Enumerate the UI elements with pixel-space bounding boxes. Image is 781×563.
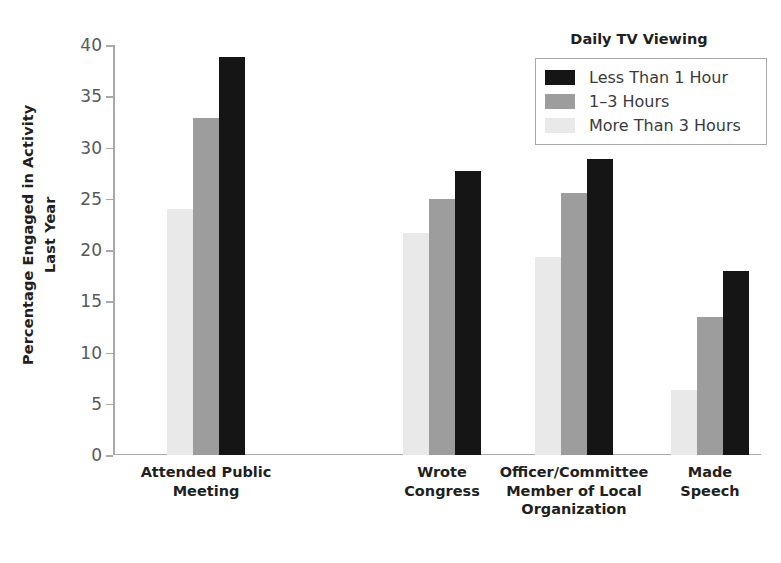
y-tick-label: 10 (80, 343, 102, 363)
bar (219, 57, 245, 455)
legend-item: More Than 3 Hours (545, 113, 757, 137)
y-tick-label: 30 (80, 138, 102, 158)
legend-item-label: Less Than 1 Hour (589, 68, 728, 87)
bar (429, 199, 455, 455)
legend-box: Less Than 1 Hour1–3 HoursMore Than 3 Hou… (535, 58, 767, 145)
y-tick-mark (106, 404, 113, 406)
y-tick-label: 20 (80, 240, 102, 260)
bar (561, 193, 587, 455)
bar (671, 390, 697, 455)
y-tick-mark (106, 199, 113, 201)
y-tick-label: 25 (80, 189, 102, 209)
bar (193, 118, 219, 455)
y-tick-label: 40 (80, 35, 102, 55)
y-tick-label: 0 (91, 445, 102, 465)
y-tick-mark (106, 353, 113, 355)
legend-item-label: More Than 3 Hours (589, 116, 741, 135)
y-tick-mark (106, 96, 113, 98)
legend-item: Less Than 1 Hour (545, 65, 757, 89)
y-axis-title-line-2: Last Year (40, 105, 62, 365)
bar (697, 317, 723, 455)
bar (455, 171, 481, 455)
bar-chart: Percentage Engaged in Activity Last Year… (0, 0, 781, 563)
legend-item-label: 1–3 Hours (589, 92, 669, 111)
bar (403, 233, 429, 455)
y-tick-mark (106, 301, 113, 303)
bar (587, 159, 613, 455)
bar-group (403, 45, 481, 455)
legend-title: Daily TV Viewing (508, 31, 770, 47)
legend-swatch (545, 118, 575, 133)
legend-swatch (545, 70, 575, 85)
bar-group (167, 45, 245, 455)
y-tick-mark (106, 250, 113, 252)
x-axis-category-label: Made Speech (600, 463, 781, 500)
y-axis-line (113, 45, 115, 455)
y-tick-mark (106, 45, 113, 47)
y-axis-title-line-1: Percentage Engaged in Activity (18, 105, 40, 365)
legend-item: 1–3 Hours (545, 89, 757, 113)
y-tick-label: 5 (91, 394, 102, 414)
legend-swatch (545, 94, 575, 109)
y-tick-mark (106, 455, 113, 457)
y-tick-label: 35 (80, 86, 102, 106)
bar (167, 209, 193, 455)
x-axis-category-label: Attended Public Meeting (96, 463, 316, 500)
bar (535, 257, 561, 455)
y-tick-mark (106, 148, 113, 150)
y-tick-label: 15 (80, 291, 102, 311)
y-axis-title: Percentage Engaged in Activity Last Year (0, 0, 80, 470)
bar (723, 271, 749, 456)
